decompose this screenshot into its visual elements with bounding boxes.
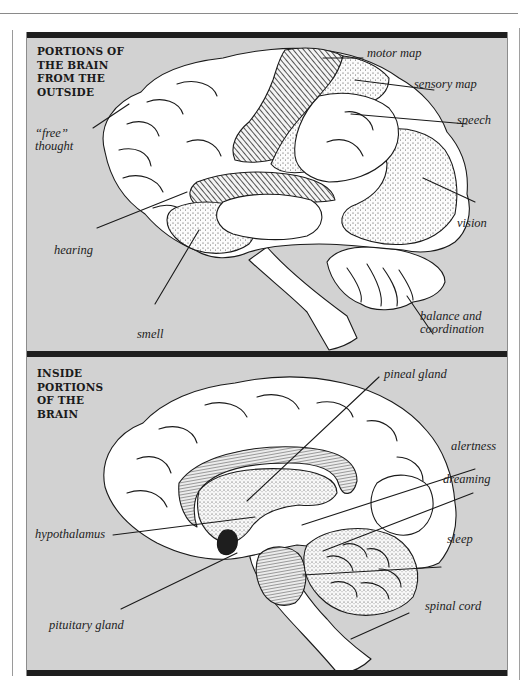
label-free-thought: “free” thought (35, 127, 73, 153)
label-sensory-map: sensory map (414, 78, 477, 91)
label-vision: vision (457, 217, 487, 230)
left-rule (12, 30, 13, 676)
label-smell: smell (137, 328, 163, 341)
label-dreaming: dreaming (443, 473, 490, 486)
label-pituitary-gland: pituitary gland (49, 619, 124, 632)
outside-heading: PORTIONS OF THE BRAIN FROM THE OUTSIDE (37, 45, 124, 99)
outside-brain-panel: PORTIONS OF THE BRAIN FROM THE OUTSIDE m… (26, 32, 508, 357)
label-hypothalamus: hypothalamus (35, 528, 105, 541)
inside-brain-panel: INSIDE PORTIONS OF THE BRAIN pineal glan… (26, 357, 508, 676)
top-rule (0, 13, 518, 14)
label-alertness: alertness (451, 440, 496, 453)
right-rule (519, 28, 520, 680)
label-speech: speech (457, 114, 491, 127)
label-hearing: hearing (54, 244, 93, 257)
panel-bottom-bar (27, 670, 507, 676)
label-balance-coordination: balance and coordination (420, 310, 484, 336)
label-pineal-gland: pineal gland (384, 368, 447, 381)
inside-heading: INSIDE PORTIONS OF THE BRAIN (37, 367, 103, 421)
label-spinal-cord: spinal cord (425, 600, 481, 613)
label-sleep: sleep (447, 533, 473, 546)
label-motor-map: motor map (367, 47, 422, 60)
